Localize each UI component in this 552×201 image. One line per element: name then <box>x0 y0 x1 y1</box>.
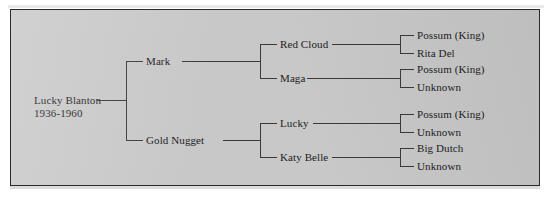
connector-gold-nugget-arm-lucky <box>260 123 277 124</box>
connector-mark-arm-maga <box>260 78 277 79</box>
connector-maga-arm-2 <box>400 87 414 88</box>
node-leaf-5: Possum (King) <box>417 108 485 120</box>
node-katy-belle-label: Katy Belle <box>280 151 328 163</box>
connector-red-cloud-arm-2 <box>400 53 414 54</box>
node-root-name: Lucky Blanton <box>34 94 101 106</box>
node-leaf-2-label: Rita Del <box>417 47 455 59</box>
node-maga-label: Maga <box>280 72 305 84</box>
node-root-years: 1936-1960 <box>34 107 101 120</box>
connector-root-arm-gold-nugget <box>126 140 143 141</box>
node-gold-nugget-label: Gold Nugget <box>146 134 204 146</box>
node-lucky: Lucky <box>280 117 309 129</box>
node-maga: Maga <box>280 72 305 84</box>
node-leaf-1: Possum (King) <box>417 29 485 41</box>
scan-edge-bottom <box>10 186 540 189</box>
node-mark-label: Mark <box>146 55 170 67</box>
node-leaf-8-label: Unknown <box>417 160 461 172</box>
connector-katy-belle-arm-1 <box>400 148 414 149</box>
connector-maga-arm-1 <box>400 69 414 70</box>
node-leaf-2: Rita Del <box>417 47 455 59</box>
node-katy-belle: Katy Belle <box>280 151 328 163</box>
scan-edge-top <box>8 5 544 8</box>
connector-red-cloud-stem <box>332 44 400 45</box>
node-leaf-8: Unknown <box>417 160 461 172</box>
connector-root-bracket <box>126 61 127 140</box>
connector-lucky-arm-1 <box>400 114 414 115</box>
connector-maga-bracket <box>400 69 401 87</box>
node-leaf-3: Possum (King) <box>417 63 485 75</box>
connector-mark-arm-red-cloud <box>260 44 277 45</box>
connector-katy-belle-bracket <box>400 148 401 166</box>
node-leaf-7-label: Big Dutch <box>417 142 463 154</box>
node-red-cloud: Red Cloud <box>280 38 328 50</box>
connector-root-arm-mark <box>126 61 143 62</box>
node-red-cloud-label: Red Cloud <box>280 38 328 50</box>
connector-katy-belle-arm-2 <box>400 166 414 167</box>
node-leaf-4: Unknown <box>417 81 461 93</box>
connector-maga-stem <box>307 78 400 79</box>
chart-panel: Lucky Blanton 1936-1960 Mark Gold Nugget… <box>10 9 540 186</box>
node-root: Lucky Blanton 1936-1960 <box>34 94 101 119</box>
connector-gold-nugget-stem <box>223 140 260 141</box>
connector-lucky-arm-2 <box>400 132 414 133</box>
connector-katy-belle-stem <box>332 157 400 158</box>
connector-mark-stem <box>182 61 260 62</box>
connector-root-stem <box>97 100 126 101</box>
node-gold-nugget: Gold Nugget <box>146 134 204 146</box>
connector-gold-nugget-bracket <box>260 123 261 157</box>
node-lucky-label: Lucky <box>280 117 309 129</box>
connector-mark-bracket <box>260 44 261 78</box>
connector-lucky-bracket <box>400 114 401 132</box>
node-leaf-7: Big Dutch <box>417 142 463 154</box>
node-leaf-1-label: Possum (King) <box>417 29 485 41</box>
node-leaf-6-label: Unknown <box>417 126 461 138</box>
connector-gold-nugget-arm-katy-belle <box>260 157 277 158</box>
pedigree-figure: Lucky Blanton 1936-1960 Mark Gold Nugget… <box>0 0 552 201</box>
node-mark: Mark <box>146 55 170 67</box>
connector-lucky-stem <box>313 123 400 124</box>
node-leaf-5-label: Possum (King) <box>417 108 485 120</box>
node-leaf-6: Unknown <box>417 126 461 138</box>
node-leaf-3-label: Possum (King) <box>417 63 485 75</box>
connector-red-cloud-arm-1 <box>400 35 414 36</box>
node-leaf-4-label: Unknown <box>417 81 461 93</box>
connector-red-cloud-bracket <box>400 35 401 53</box>
